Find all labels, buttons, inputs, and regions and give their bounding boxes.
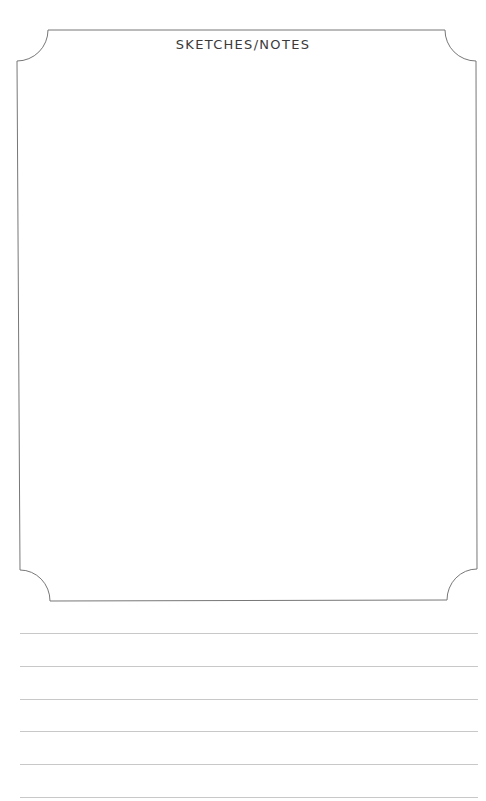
ruled-line [20,633,478,634]
ruled-line [20,666,478,667]
ruled-line [20,764,478,765]
ruled-line [20,797,478,798]
ruled-line [20,731,478,732]
sketch-frame [0,0,486,620]
ruled-line [20,699,478,700]
page-title: SKETCHES/NOTES [0,37,486,52]
